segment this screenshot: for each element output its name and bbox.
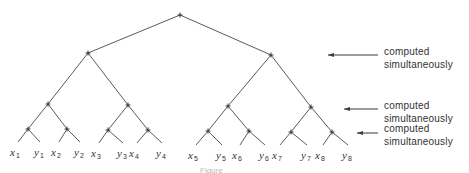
tree-edge	[280, 132, 291, 145]
annotation-level-1: computed simultaneously	[384, 45, 453, 71]
tree-edge	[332, 132, 348, 145]
leaf-label-x3: x3	[90, 147, 101, 160]
leaf-label-y5: y5	[215, 149, 226, 162]
tree-edge	[291, 107, 311, 132]
tree-edge	[88, 15, 180, 53]
root-node	[178, 13, 183, 18]
tree-edge	[108, 130, 123, 143]
tree-edge	[291, 132, 307, 145]
tree-edge	[99, 130, 108, 143]
leaf-label-x5: x5	[187, 149, 198, 162]
tree-edge	[59, 129, 67, 142]
tree-edge	[108, 105, 128, 130]
leaf-label-y7: y7	[300, 149, 311, 162]
tree-edge	[128, 105, 148, 130]
tree-edge	[88, 53, 128, 105]
figure-caption: Figure	[200, 166, 223, 173]
leaf-label-x8: x8	[314, 149, 325, 162]
tree-edge	[28, 104, 48, 129]
annotation-line1: computed	[384, 45, 453, 58]
annotation-arrows	[328, 53, 378, 135]
tree-edge	[228, 55, 271, 106]
tree-edge	[137, 130, 148, 143]
tree-edge	[271, 55, 311, 107]
arrow-left-icon	[357, 131, 363, 135]
tree-edge	[180, 15, 271, 55]
tree-edge	[48, 104, 67, 129]
tree-edge	[18, 129, 28, 142]
arrow-left-icon	[328, 53, 334, 57]
annotation-line2: simultaneously	[384, 58, 453, 71]
leaf-label-x7: x7	[271, 149, 282, 162]
tree-edge	[28, 129, 40, 142]
tree-edge	[208, 131, 222, 145]
leaf-label-x6: x6	[231, 149, 242, 162]
tree-edge	[249, 131, 265, 145]
leaf-label-y4: y4	[155, 147, 166, 160]
arrow-left-icon	[344, 107, 350, 111]
annotation-line1: computed	[384, 99, 453, 112]
tree-edge	[48, 53, 88, 104]
tree-edge	[67, 129, 80, 142]
leaf-label-x1: x1	[9, 146, 20, 159]
tree-edge	[228, 106, 249, 131]
annotation-line1: computed	[384, 122, 453, 135]
tree-edge	[196, 131, 208, 145]
leaf-label-y6: y6	[258, 149, 269, 162]
leaf-label-y3: y3	[116, 147, 127, 160]
annotation-level-3: computed simultaneously	[384, 122, 453, 148]
leaf-label-x4: x4	[128, 147, 139, 160]
tree-edge	[240, 131, 249, 145]
leaf-label-y1: y1	[33, 146, 44, 159]
leaf-label-y2: y2	[73, 146, 84, 159]
annotation-line2: simultaneously	[384, 135, 453, 148]
tree-edge	[311, 107, 332, 132]
leaf-labels: x1y1x2y2x3y3x4y4x5y5x6y6x7y7x8y8	[9, 146, 352, 162]
tree-edge	[323, 132, 332, 145]
leaf-label-x2: x2	[50, 146, 61, 159]
tree-edge	[208, 106, 228, 131]
tree-edge	[148, 130, 162, 143]
tree-edges	[18, 15, 348, 145]
leaf-label-y8: y8	[341, 149, 352, 162]
